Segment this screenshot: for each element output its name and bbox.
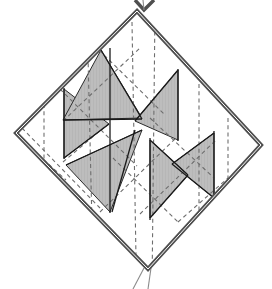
crease-pattern-svg [0,0,272,289]
origami-figure-container [0,0,272,289]
